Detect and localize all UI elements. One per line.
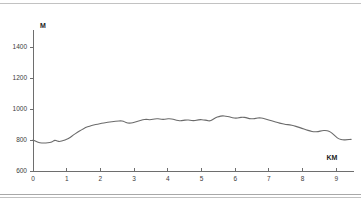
- y-axis-title: M: [40, 22, 46, 29]
- y-axis-ticks: 600800100012001400: [13, 43, 33, 174]
- x-axis-ticks: 0123456789: [31, 168, 338, 182]
- x-tick-label: 6: [233, 175, 237, 182]
- x-tick-label: 3: [132, 175, 136, 182]
- x-tick-label: 1: [65, 175, 69, 182]
- y-tick-label: 1000: [13, 105, 28, 112]
- y-tick-label: 800: [16, 136, 27, 143]
- x-tick-label: 9: [334, 175, 338, 182]
- x-tick-label: 2: [99, 175, 103, 182]
- y-tick-label: 1200: [13, 74, 28, 81]
- x-tick-label: 4: [166, 175, 170, 182]
- elevation-profile-chart: 600800100012001400 0123456789 M KM: [0, 0, 361, 208]
- x-tick-label: 5: [200, 175, 204, 182]
- x-tick-label: 8: [301, 175, 305, 182]
- x-tick-label: 0: [31, 175, 35, 182]
- y-tick-label: 600: [16, 167, 27, 174]
- y-tick-label: 1400: [13, 43, 28, 50]
- x-axis-title: KM: [327, 154, 338, 161]
- x-tick-label: 7: [267, 175, 271, 182]
- elevation-line: [33, 116, 351, 143]
- chart-plot-area: 600800100012001400 0123456789 M KM: [0, 0, 361, 208]
